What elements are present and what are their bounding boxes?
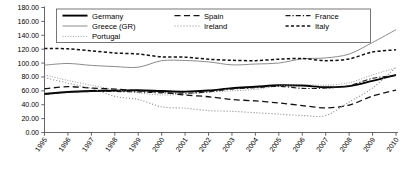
legend-label-france: France [315, 12, 339, 21]
x-axis: 1995199619971998199920002001200220032004… [34, 133, 400, 153]
line-chart: 0.0020.0040.0060.0080.00100.00120.00140.… [0, 0, 403, 186]
x-tick-label: 2001 [174, 136, 189, 153]
x-tick-label: 2006 [291, 136, 306, 153]
y-tick-label: 80.00 [21, 73, 39, 80]
x-tick-label: 2008 [338, 136, 353, 153]
x-tick-label: 2010 [385, 136, 400, 153]
chart-canvas: 0.0020.0040.0060.0080.00100.00120.00140.… [0, 0, 403, 186]
x-tick-label: 2003 [221, 136, 236, 153]
x-tick-label: 2007 [315, 136, 330, 153]
y-tick-label: 0.00 [25, 129, 39, 136]
y-tick-label: 100.00 [18, 60, 40, 67]
x-tick-label: 1999 [127, 136, 142, 153]
series-line-italy [45, 48, 397, 60]
legend-label-italy: Italy [315, 22, 329, 31]
x-tick-label: 2009 [362, 136, 377, 153]
legend-label-spain: Spain [204, 12, 223, 21]
y-tick-label: 60.00 [21, 87, 39, 94]
x-tick-label: 2004 [245, 136, 260, 153]
x-tick-label: 1996 [57, 136, 72, 153]
y-tick-label: 40.00 [21, 101, 39, 108]
y-axis: 0.0020.0040.0060.0080.00100.00120.00140.… [18, 4, 45, 136]
legend-label-portugal: Portugal [92, 32, 121, 41]
x-tick-label: 1998 [104, 136, 119, 153]
y-tick-label: 20.00 [21, 115, 39, 122]
x-tick-label: 2002 [198, 136, 213, 153]
y-tick-label: 160.00 [18, 18, 40, 25]
y-tick-label: 180.00 [18, 4, 40, 11]
x-tick-label: 1997 [81, 136, 96, 153]
x-tick-label: 1995 [34, 136, 49, 153]
y-tick-label: 140.00 [18, 32, 40, 39]
legend-label-ireland: Ireland [204, 22, 227, 31]
legend-label-greece-gr: Greece (GR) [92, 22, 136, 31]
legend-label-germany: Germany [92, 12, 123, 21]
x-tick-label: 2000 [151, 136, 166, 153]
x-tick-label: 2005 [268, 136, 283, 153]
legend: GermanyGreece (GR)PortugalSpainIrelandFr… [57, 9, 371, 43]
y-tick-label: 120.00 [18, 46, 40, 53]
